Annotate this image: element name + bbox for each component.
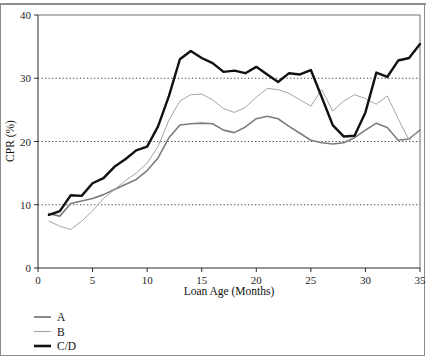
x-tick-label-10: 10 bbox=[142, 274, 154, 286]
series-line-c-d bbox=[49, 44, 420, 215]
x-tick-label-30: 30 bbox=[360, 274, 372, 286]
y-tick-label-0: 0 bbox=[26, 262, 32, 274]
figure-container: 010203040 05101520253035 CPR (%) Loan Ag… bbox=[0, 0, 426, 361]
chart-legend: ABC/D bbox=[34, 311, 76, 352]
x-tick-label-35: 35 bbox=[415, 274, 426, 286]
x-axis-ticks: 05101520253035 bbox=[35, 268, 426, 286]
y-tick-label-10: 10 bbox=[20, 199, 32, 211]
y-axis-ticks: 010203040 bbox=[20, 9, 38, 274]
plot-wrapper: 010203040 05101520253035 CPR (%) Loan Ag… bbox=[0, 0, 426, 361]
x-axis-title: Loan Age (Months) bbox=[184, 285, 275, 298]
series-line-a bbox=[49, 116, 420, 216]
x-tick-label-5: 5 bbox=[90, 274, 96, 286]
cpr-loan-age-line-chart: 010203040 05101520253035 CPR (%) Loan Ag… bbox=[0, 0, 426, 361]
legend-label-b: B bbox=[57, 326, 65, 338]
x-tick-label-25: 25 bbox=[305, 274, 317, 286]
y-tick-label-20: 20 bbox=[20, 136, 32, 148]
legend-label-a: A bbox=[57, 311, 66, 323]
series-line-b bbox=[49, 88, 420, 229]
x-tick-label-0: 0 bbox=[35, 274, 41, 286]
data-series-group bbox=[49, 44, 420, 229]
legend-label-c-d: C/D bbox=[57, 340, 76, 352]
y-tick-label-40: 40 bbox=[20, 9, 32, 21]
y-tick-label-30: 30 bbox=[20, 72, 32, 84]
y-axis-title: CPR (%) bbox=[4, 120, 17, 162]
